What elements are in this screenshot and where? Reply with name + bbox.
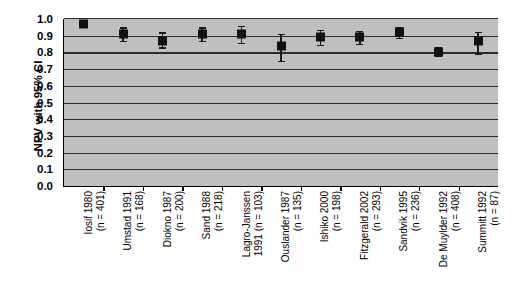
error-bar-cap-lower [199, 41, 206, 42]
x-category-label: Diokno 1987(n = 200) [142, 191, 181, 303]
study-name: Sand 1988 [201, 191, 212, 239]
y-tick-label: 0.0 [37, 180, 53, 192]
study-name: Diokno 1987 [162, 191, 173, 247]
x-category-label: Summitt 1992(n = 87) [458, 191, 497, 303]
study-name: De Muylder 1992 [438, 191, 449, 267]
gridline [64, 119, 498, 120]
data-marker [316, 33, 325, 42]
y-tick-label: 0.2 [37, 147, 53, 159]
x-category-label: De Muylder 1992(n = 408) [418, 191, 457, 303]
y-tick-label: 0.3 [37, 130, 53, 142]
error-bar-cap-lower [356, 44, 363, 45]
study-name: Fitzgerald 2002 [359, 191, 370, 260]
gridline [64, 153, 498, 154]
x-category-label: Lagro-Janssen1991 (n = 103) [221, 191, 260, 303]
x-category-label: Sand 1988(n = 218) [181, 191, 220, 303]
plot-top-border [64, 18, 498, 19]
data-marker [79, 20, 88, 29]
y-axis-tick-labels: 1.00.90.80.70.60.50.40.30.20.10.0 [14, 19, 58, 186]
study-sample-size: (n = 87) [489, 191, 501, 301]
x-axis-category-labels: Iosif 1980(n = 401)Umstad 1991(n = 168)D… [63, 191, 497, 303]
y-tick-label: 1.0 [37, 13, 53, 25]
y-tick-label: 0.7 [37, 63, 53, 75]
x-category-label: Fitzgerald 2002(n = 293) [339, 191, 378, 303]
error-bar-cap-upper [278, 34, 285, 35]
study-name: Umstad 1991 [122, 191, 133, 250]
chart-figure: NPV with 95% CI 1.00.90.80.70.60.50.40.3… [0, 0, 512, 303]
gridline [64, 169, 498, 170]
gridline [64, 86, 498, 87]
x-category-label: Sandvik 1995(n = 236) [379, 191, 418, 303]
gridline [64, 103, 498, 104]
error-bar-cap-lower [475, 54, 482, 55]
data-marker [355, 33, 364, 42]
y-tick-label: 0.1 [37, 163, 53, 175]
data-marker [474, 36, 483, 45]
y-tick-label: 0.9 [37, 30, 53, 42]
error-bar-cap-lower [396, 38, 403, 39]
plot-area [63, 19, 498, 187]
data-marker [158, 36, 167, 45]
y-tick-label: 0.5 [37, 97, 53, 109]
error-bar-cap-upper [356, 31, 363, 32]
error-bar-cap-lower [278, 61, 285, 62]
x-category-label-text: Summitt 1992(n = 87) [477, 191, 500, 301]
error-bar-cap-lower [159, 47, 166, 48]
error-bar-cap-upper [238, 26, 245, 27]
error-bar-cap-upper [475, 32, 482, 33]
error-bar-cap-upper [317, 30, 324, 31]
error-bar-cap-lower [120, 41, 127, 42]
error-bar-cap-lower [317, 45, 324, 46]
y-tick-label: 0.6 [37, 80, 53, 92]
data-marker [237, 30, 246, 39]
x-category-label: Umstad 1991(n = 168) [102, 191, 141, 303]
gridline [64, 69, 498, 70]
study-name: Lagro-Janssen [241, 191, 252, 257]
study-name: Sandvik 1995 [398, 191, 409, 252]
error-bar-cap-upper [199, 27, 206, 28]
error-bar-cap-upper [120, 27, 127, 28]
x-category-label: Ouslander 1987(n = 135) [260, 191, 299, 303]
data-marker [198, 30, 207, 39]
study-name: Summitt 1992 [477, 191, 488, 253]
study-name: Ishiko 2000 [319, 191, 330, 242]
data-marker [395, 28, 404, 37]
error-bar-cap-lower [238, 43, 245, 44]
x-category-label: Ishiko 2000(n = 198) [300, 191, 339, 303]
study-name: Ouslander 1987 [280, 191, 291, 262]
data-marker [434, 47, 443, 56]
gridline [64, 136, 498, 137]
x-category-label: Iosif 1980(n = 401) [63, 191, 102, 303]
study-name: Iosif 1980 [83, 191, 94, 234]
y-tick-label: 0.8 [37, 46, 53, 58]
y-tick-label: 0.4 [37, 113, 53, 125]
data-marker [277, 41, 286, 50]
data-marker [119, 30, 128, 39]
error-bar-cap-upper [159, 32, 166, 33]
